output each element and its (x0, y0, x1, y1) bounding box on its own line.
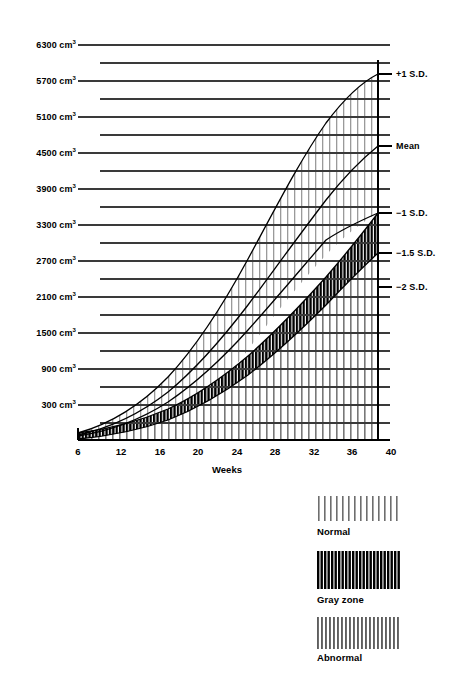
x-tick-label-40: 40 (381, 446, 401, 457)
y-tick-label-2100: 2100 cm3 (8, 292, 76, 302)
x-tick-label-28: 28 (265, 446, 285, 457)
x-tick-label-12: 12 (111, 446, 131, 457)
y-tick-label-6300: 6300 cm3 (8, 40, 76, 50)
y-tick-label-1500: 1500 cm3 (8, 328, 76, 338)
sd-label-minus-2-sd: −2 S.D. (396, 282, 428, 292)
chart-plot-area (0, 0, 472, 677)
x-tick-label-32: 32 (304, 446, 324, 457)
legend-swatch-normal (317, 496, 401, 521)
y-tick-label-5100: 5100 cm3 (8, 112, 76, 122)
legend-label-abnormal: Abnormal (317, 652, 362, 663)
fetal-lung-volume-growth-chart: 6300 cm3 5700 cm3 5100 cm3 4500 cm3 3900… (0, 0, 472, 677)
legend-swatch-gray-zone (317, 551, 401, 589)
x-tick-label-6: 6 (68, 446, 88, 457)
y-tick-label-2700: 2700 cm3 (8, 256, 76, 266)
legend-swatch-abnormal (317, 617, 401, 649)
y-tick-label-5700: 5700 cm3 (8, 76, 76, 86)
hatch-regions (78, 74, 378, 440)
y-tick-label-4500: 4500 cm3 (8, 148, 76, 158)
sd-tick-marks (378, 74, 392, 287)
x-tick-label-36: 36 (342, 446, 362, 457)
y-tick-label-3300: 3300 cm3 (8, 220, 76, 230)
x-tick-label-16: 16 (150, 446, 170, 457)
legend-label-normal: Normal (317, 526, 350, 537)
sd-label-mean: Mean (396, 141, 420, 151)
sd-label-minus-1-5-sd: −1.5 S.D. (396, 248, 436, 258)
sd-label-plus-1-sd: +1 S.D. (396, 69, 428, 79)
y-tick-label-3900: 3900 cm3 (8, 184, 76, 194)
sd-label-minus-1-sd: −1 S.D. (396, 208, 428, 218)
y-tick-label-900: 900 cm3 (8, 364, 76, 374)
y-tick-label-300: 300 cm3 (8, 400, 76, 410)
legend-label-gray-zone: Gray zone (317, 594, 364, 605)
x-tick-label-20: 20 (188, 446, 208, 457)
x-tick-label-24: 24 (227, 446, 247, 457)
x-axis-title: Weeks (167, 464, 287, 475)
